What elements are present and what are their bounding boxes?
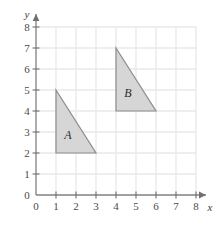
y-tick-label-0: 0	[24, 189, 30, 201]
x-axis-label: x	[207, 201, 213, 213]
y-tick-label-1: 1	[24, 168, 30, 180]
y-axis-label: y	[24, 8, 30, 20]
triangle-label-a: A	[63, 128, 72, 142]
x-tick-label-1: 1	[53, 200, 59, 212]
coordinate-plane-svg: 012345678 012345678 x y AB	[0, 0, 223, 227]
x-tick-label-2: 2	[73, 200, 79, 212]
x-tick-label-4: 4	[113, 200, 119, 212]
x-tick-label-0: 0	[33, 200, 39, 212]
x-tick-label-8: 8	[193, 200, 199, 212]
y-tick-label-6: 6	[24, 63, 30, 75]
y-tick-label-5: 5	[24, 84, 30, 96]
x-axis-tick-labels: 012345678	[33, 200, 199, 212]
y-tick-label-2: 2	[24, 147, 30, 159]
x-tick-label-5: 5	[133, 200, 139, 212]
y-tick-label-7: 7	[24, 42, 30, 54]
y-tick-label-4: 4	[24, 105, 30, 117]
x-tick-label-3: 3	[93, 200, 99, 212]
figure-background	[0, 0, 223, 227]
x-tick-label-6: 6	[153, 200, 159, 212]
triangle-label-b: B	[124, 86, 132, 100]
y-tick-label-3: 3	[24, 126, 30, 138]
y-tick-label-8: 8	[24, 21, 30, 33]
x-tick-label-7: 7	[173, 200, 179, 212]
coordinate-graph-figure: 012345678 012345678 x y AB	[0, 0, 223, 227]
y-axis-tick-labels: 012345678	[24, 21, 30, 201]
